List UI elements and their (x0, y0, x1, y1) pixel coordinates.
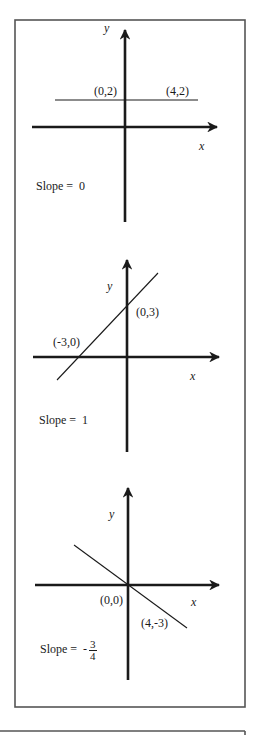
x-axis-label: x (191, 596, 196, 608)
slope-label: Slope = -34 (40, 639, 97, 662)
y-axis-label: y (107, 280, 112, 292)
y-axis-label: y (109, 508, 114, 520)
fraction-denominator: 4 (89, 651, 97, 662)
slope-label: Slope = 0 (36, 180, 85, 192)
slope-value: 0 (79, 179, 85, 193)
point-label-4-neg3: (4,-3) (141, 617, 168, 629)
slope-value: 1 (82, 413, 88, 427)
point-label-0-3: (0,3) (136, 306, 159, 318)
slope-prefix: Slope = (39, 413, 82, 427)
x-axis-label: x (190, 370, 195, 382)
slope-prefix: Slope = - (40, 642, 87, 656)
point-label-neg3-0: (-3,0) (53, 336, 80, 348)
diagram-canvas (0, 0, 254, 735)
point-label-0-0: (0,0) (100, 594, 123, 606)
plotted-line (74, 545, 187, 628)
outer-frame (15, 20, 245, 707)
slope-label: Slope = 1 (39, 414, 88, 426)
point-label-4-2: (4,2) (166, 85, 189, 97)
slope-fraction: 34 (89, 639, 97, 662)
slope-diagram: y(0,2)(4,2)xSlope = 0y(0,3)(-3,0)xSlope … (0, 0, 254, 735)
x-axis-label: x (199, 140, 204, 152)
graph-panel-zero-slope (32, 30, 217, 222)
y-axis-label: y (104, 22, 109, 34)
slope-prefix: Slope = (36, 179, 79, 193)
point-label-0-2: (0,2) (94, 85, 117, 97)
